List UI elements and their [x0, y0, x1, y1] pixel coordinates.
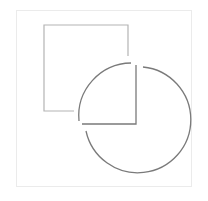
square-shape: [44, 25, 128, 111]
circle-shape: [79, 63, 191, 173]
shapes-icon: [0, 0, 208, 201]
